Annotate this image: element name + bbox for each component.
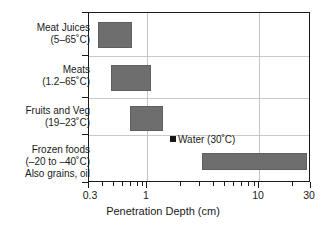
bar-meats <box>111 65 151 91</box>
y-axis-tick <box>82 97 88 98</box>
x-axis-minor-tick <box>142 182 143 186</box>
x-axis-minor-tick <box>254 182 255 186</box>
x-axis-minor-tick <box>233 182 234 186</box>
gridline-horizontal <box>89 98 309 99</box>
gridline-horizontal <box>89 56 309 57</box>
x-axis-title: Penetration Depth (cm) <box>0 205 326 218</box>
x-axis-tick-label: 0.3 <box>83 189 98 201</box>
x-axis-minor-tick <box>137 182 138 186</box>
water-annotation-label: Water (30˚C) <box>178 134 235 145</box>
x-axis-tick-30 <box>310 182 311 188</box>
category-label-line1: Fruits and Veg <box>26 105 90 116</box>
category-label-frozen-foods: Frozen foods (–20 to –40˚C) Also grains,… <box>25 144 90 180</box>
water-marker-icon <box>170 136 176 142</box>
x-axis-tick-label: 1 <box>143 189 149 201</box>
x-axis-minor-tick <box>130 182 131 186</box>
x-axis-tick-10 <box>258 182 259 188</box>
y-axis-tick <box>82 55 88 56</box>
x-axis-tick-1 <box>146 182 147 188</box>
x-axis-minor-tick <box>180 182 181 186</box>
x-axis-minor-tick <box>102 182 103 186</box>
category-label-line1: Meats <box>63 64 90 75</box>
category-label-line1: Meat Juices <box>37 22 90 33</box>
x-axis-tick-label: 10 <box>252 189 264 201</box>
category-label-line1: Frozen foods <box>32 144 90 155</box>
plot-area: Water (30˚C) <box>88 12 310 182</box>
category-label-line3: Also grains, oil <box>25 168 90 180</box>
bar-fruits-and-veg <box>130 106 163 131</box>
x-axis-tick-label: 30 <box>303 189 315 201</box>
chart-figure: Water (30˚C) Meat Juices (5–65˚C) Meats … <box>0 0 326 229</box>
category-label-meat-juices: Meat Juices (5–65˚C) <box>37 22 90 46</box>
gridline-vertical-1 <box>147 13 148 181</box>
x-axis-minor-tick <box>248 182 249 186</box>
category-label-meats: Meats (1.2–65˚C) <box>42 64 90 88</box>
x-axis-minor-tick <box>199 182 200 186</box>
x-axis-minor-tick <box>292 182 293 186</box>
x-axis-minor-tick <box>122 182 123 186</box>
x-axis-minor-tick <box>224 182 225 186</box>
bar-meat-juices <box>98 22 132 48</box>
x-axis-tick-0.3 <box>88 182 89 188</box>
category-label-line2: (19–23˚C) <box>26 117 90 129</box>
category-label-line2: (1.2–65˚C) <box>42 76 90 88</box>
category-label-line2: (5–65˚C) <box>37 34 90 46</box>
category-label-fruits-and-veg: Fruits and Veg (19–23˚C) <box>26 105 90 129</box>
bar-frozen-foods <box>202 153 307 170</box>
y-axis-tick <box>82 134 88 135</box>
y-axis-tick <box>82 12 88 13</box>
x-axis-minor-tick <box>241 182 242 186</box>
x-axis-minor-tick <box>213 182 214 186</box>
x-axis-minor-tick <box>113 182 114 186</box>
category-label-line2: (–20 to –40˚C) <box>25 156 90 168</box>
